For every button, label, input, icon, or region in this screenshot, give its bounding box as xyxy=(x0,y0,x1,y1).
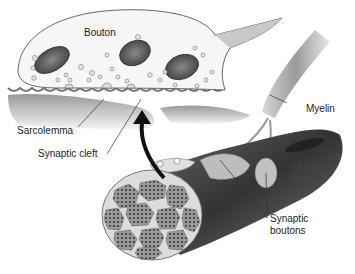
label-myelin: Myelin xyxy=(306,103,335,114)
bouton-enlarged xyxy=(18,10,282,90)
label-synaptic-boutons-line2: boutons xyxy=(270,225,306,236)
postsynaptic-membrane xyxy=(8,88,250,129)
muscle-fiber-cross-section xyxy=(102,170,202,260)
neuromuscular-junction-diagram: Bouton Sarcolemma Synaptic cleft Myelin … xyxy=(0,0,355,274)
label-sarcolemma: Sarcolemma xyxy=(17,125,73,136)
label-muscle-fiber-line1: Muscle xyxy=(292,161,324,172)
label-muscle-fiber-line2: fiber xyxy=(294,172,313,183)
label-bouton: Bouton xyxy=(84,27,116,38)
label-synaptic-cleft: Synaptic cleft xyxy=(38,148,97,159)
label-synaptic-boutons-line1: Synaptic xyxy=(270,213,308,224)
